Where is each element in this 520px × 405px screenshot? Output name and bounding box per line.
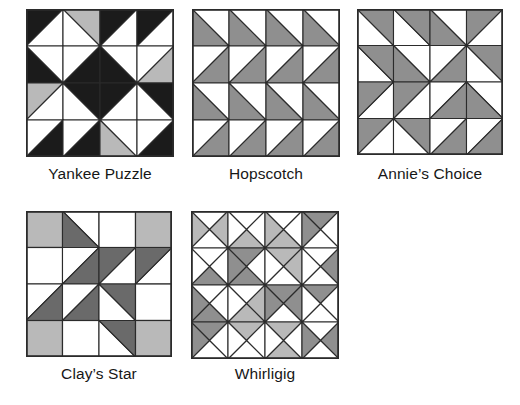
quilt-patch xyxy=(100,46,137,83)
quilt-patch xyxy=(63,248,100,285)
quilt-block-label-hopscotch: Hopscotch xyxy=(192,166,340,182)
quilt-patch xyxy=(467,9,504,46)
quilt-patch xyxy=(99,284,136,321)
quilt-patch xyxy=(303,9,340,46)
quilt-patch xyxy=(26,321,63,358)
quilt-patch xyxy=(430,119,467,156)
quilt-patch xyxy=(302,322,339,359)
quilt-patch xyxy=(26,9,63,46)
quilt-patch xyxy=(228,285,265,322)
quilt-patch xyxy=(137,120,174,157)
quilt-patch xyxy=(266,83,303,120)
quilt-patch xyxy=(394,46,431,83)
quilt-patch xyxy=(467,46,504,83)
quilt-block-annies-choice xyxy=(357,9,503,155)
quilt-patch xyxy=(228,322,265,359)
quilt-patch xyxy=(265,285,302,322)
quilt-patch xyxy=(430,9,467,46)
quilt-patch xyxy=(430,82,467,119)
quilt-patch xyxy=(63,9,100,46)
quilt-patch xyxy=(136,321,173,358)
quilt-patch xyxy=(100,9,137,46)
quilt-patch xyxy=(265,211,302,248)
quilt-patch xyxy=(302,248,339,285)
quilt-patch xyxy=(63,120,100,157)
quilt-block-label-clays-star: Clay’s Star xyxy=(24,366,174,382)
quilt-patch xyxy=(99,211,136,248)
quilt-patch xyxy=(26,248,63,285)
quilt-block-whirligig xyxy=(191,211,339,359)
quilt-patch xyxy=(265,248,302,285)
quilt-patch xyxy=(467,119,504,156)
quilt-patch xyxy=(136,248,173,285)
quilt-patch xyxy=(302,285,339,322)
quilt-patch xyxy=(302,211,339,248)
quilt-patch xyxy=(430,46,467,83)
quilt-cells xyxy=(191,211,339,359)
quilt-patch xyxy=(394,119,431,156)
quilt-block-caption-clays-star: Clay’s Star xyxy=(24,366,174,382)
quilt-patch xyxy=(394,82,431,119)
quilt-patch xyxy=(100,83,137,120)
quilt-patch xyxy=(99,321,136,358)
quilt-block-label-yankee-puzzle: Yankee Puzzle xyxy=(26,166,174,182)
quilt-patch xyxy=(303,46,340,83)
quilt-patch xyxy=(100,120,137,157)
quilt-patch xyxy=(26,284,63,321)
quilt-block-diagram-annies-choice xyxy=(357,9,503,155)
quilt-patch xyxy=(303,83,340,120)
quilt-patch xyxy=(63,284,100,321)
quilt-patch xyxy=(229,46,266,83)
quilt-patch xyxy=(63,46,100,83)
quilt-block-hopscotch xyxy=(192,9,340,157)
quilt-patch xyxy=(63,83,100,120)
quilt-block-diagram-clays-star xyxy=(26,211,172,357)
quilt-block-caption-yankee-puzzle: Yankee Puzzle xyxy=(26,166,174,182)
quilt-patch xyxy=(192,9,229,46)
quilt-block-caption-annies-choice: Annie’s Choice xyxy=(352,166,508,182)
quilt-patch xyxy=(229,83,266,120)
quilt-patch xyxy=(192,83,229,120)
quilt-block-label-whirligig: Whirligig xyxy=(191,366,339,382)
quilt-patch xyxy=(191,211,228,248)
quilt-cells xyxy=(357,9,503,155)
quilt-cells xyxy=(192,9,340,157)
quilt-block-caption-whirligig: Whirligig xyxy=(191,366,339,382)
quilt-patch xyxy=(63,321,100,358)
quilt-patch xyxy=(357,119,394,156)
quilt-patch xyxy=(228,248,265,285)
quilt-patch xyxy=(26,46,63,83)
quilt-patch xyxy=(303,120,340,157)
quilt-patch xyxy=(394,9,431,46)
quilt-patch xyxy=(137,83,174,120)
quilt-patch xyxy=(357,9,394,46)
quilt-patch xyxy=(26,120,63,157)
quilt-patch xyxy=(266,9,303,46)
quilt-block-clays-star xyxy=(26,211,172,357)
quilt-patch xyxy=(63,211,100,248)
quilt-patch xyxy=(357,46,394,83)
quilt-block-diagram-hopscotch xyxy=(192,9,340,157)
quilt-cells xyxy=(26,211,172,357)
quilt-patch xyxy=(191,285,228,322)
quilt-block-diagram-yankee-puzzle xyxy=(26,9,174,157)
quilt-patch xyxy=(192,120,229,157)
quilt-patch xyxy=(26,211,63,248)
quilt-patch xyxy=(357,82,394,119)
quilt-patch xyxy=(26,83,63,120)
quilt-patch xyxy=(99,248,136,285)
quilt-block-diagram-whirligig xyxy=(191,211,339,359)
quilt-patch xyxy=(229,9,266,46)
quilt-pattern-figure: Yankee PuzzleHopscotchAnnie’s ChoiceClay… xyxy=(0,0,520,405)
quilt-patch xyxy=(229,120,266,157)
quilt-patch xyxy=(266,120,303,157)
quilt-block-caption-hopscotch: Hopscotch xyxy=(192,166,340,182)
quilt-block-yankee-puzzle xyxy=(26,9,174,157)
quilt-patch xyxy=(137,46,174,83)
quilt-patch xyxy=(228,211,265,248)
quilt-patch xyxy=(191,322,228,359)
quilt-patch xyxy=(137,9,174,46)
quilt-patch xyxy=(192,46,229,83)
quilt-patch xyxy=(136,284,173,321)
quilt-patch xyxy=(265,322,302,359)
